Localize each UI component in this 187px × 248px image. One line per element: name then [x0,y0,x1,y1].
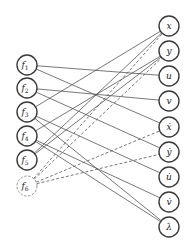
node-f4: f4 [17,126,37,146]
node-label: u̇ [166,172,172,182]
edge-f3-x [36,31,161,107]
node-ydot: ẏ [159,142,179,162]
node-f6: f6 [17,176,37,196]
node-label: ẏ [165,147,172,157]
node-vdot: v̇ [159,192,179,212]
node-y: y [159,41,179,61]
node-xdot: ẋ [159,117,179,137]
edge-f6-ydot [37,154,160,183]
edge-f4-lambda [35,141,160,221]
node-lambda: λ [159,217,179,237]
node-u: u [159,66,179,86]
node-v: v [159,91,179,111]
edges-layer [34,31,163,221]
node-f5: f5 [17,150,37,170]
node-label: ẋ [166,122,171,132]
edge-f2-ydot [36,92,160,148]
edge-f3-lambda [35,118,161,220]
nodes-layer: f1f2f3f4f5f6xyuvẋẏu̇v̇λ [17,16,179,237]
edge-f5-x [34,33,161,153]
node-f1: f1 [17,55,37,75]
node-label: λ [165,222,172,232]
node-label: u [166,71,172,81]
node-f3: f3 [17,102,37,122]
edge-f3-udot [36,116,160,173]
node-f2: f2 [17,78,37,98]
node-label: x [166,21,171,31]
bipartite-graph: f1f2f3f4f5f6xyuvẋẏu̇v̇λ [0,0,187,248]
node-label: v̇ [166,197,171,207]
edge-f1-u [37,66,159,75]
node-label: y [165,46,172,56]
node-x: x [159,16,179,36]
node-udot: u̇ [159,167,179,187]
node-label: v [166,96,171,106]
edge-f6-y [34,58,162,179]
